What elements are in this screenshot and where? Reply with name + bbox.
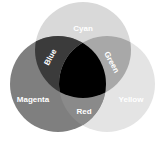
- label-red: Red: [76, 107, 91, 116]
- label-magenta: Magenta: [17, 95, 50, 104]
- label-cyan: Cyan: [73, 24, 93, 33]
- venn-diagram: Cyan Blue Green Magenta Red Yellow: [0, 0, 161, 141]
- label-yellow: Yellow: [119, 95, 145, 104]
